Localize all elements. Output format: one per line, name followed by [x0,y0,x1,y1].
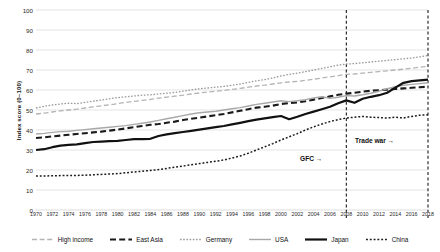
legend-label: High income [58,236,94,243]
y-tick-label: 20 [26,167,33,174]
event-vertical-lines [346,10,428,218]
x-tick-label: 2008 [340,211,352,217]
x-tick-label: 2000 [275,211,287,217]
y-tick-label: 90 [26,27,33,34]
y-tick-label: 50 [26,107,33,114]
x-tick-label: 1992 [210,211,222,217]
y-tick-label: 40 [26,127,33,134]
x-axis-ticks: 1970197219741976197819801982198419861988… [36,211,428,223]
x-tick-label: 2004 [308,211,320,217]
x-tick-label: 2012 [373,211,385,217]
x-tick-label: 1976 [79,211,91,217]
y-tick-label: 70 [26,67,33,74]
annotation-gfc: GFC → [300,155,322,162]
x-tick-label: 2002 [291,211,303,217]
x-tick-label: 1972 [46,211,58,217]
legend-item-east-asia[interactable]: East Asia [110,236,163,243]
x-tick-label: 1994 [226,211,238,217]
x-tick-label: 1984 [144,211,156,217]
x-tick-label: 2016 [406,211,418,217]
legend-swatch-germany [180,236,202,243]
line-chart: Index score (0–100) 01020304050607080901… [0,0,440,252]
legend-swatch-high-income [32,236,54,243]
y-tick-label: 100 [23,7,33,14]
legend-label: USA [275,236,288,243]
legend-swatch-japan [305,236,327,243]
y-tick-label: 30 [26,147,33,154]
x-tick-label: 2006 [324,211,336,217]
legend-item-china[interactable]: China [366,236,409,243]
legend-swatch-usa [249,236,271,243]
x-tick-label: 1986 [161,211,173,217]
legend-label: China [392,236,409,243]
legend-item-high-income[interactable]: High income [32,236,94,243]
legend-item-usa[interactable]: USA [249,236,288,243]
x-tick-label: 1998 [259,211,271,217]
gridlines [36,10,428,210]
x-tick-label: 1988 [177,211,189,217]
x-tick-label: 1982 [128,211,140,217]
legend-label: East Asia [136,236,163,243]
annotation-trade-war: Trade war → [355,137,394,144]
x-tick-label: 1990 [193,211,205,217]
y-tick-label: 10 [26,187,33,194]
plot-area: 0102030405060708090100 [36,10,428,210]
y-tick-label: 60 [26,87,33,94]
x-tick-label: 2018 [422,211,434,217]
legend-swatch-china [366,236,388,243]
series-line-germany [36,56,428,108]
legend-label: Germany [206,236,232,243]
legend-item-japan[interactable]: Japan [305,236,348,243]
x-tick-label: 1980 [112,211,124,217]
x-tick-label: 2014 [389,211,401,217]
x-tick-label: 1970 [30,211,42,217]
chart-legend: High incomeEast AsiaGermanyUSAJapanChina [0,231,440,247]
y-tick-label: 80 [26,47,33,54]
legend-swatch-east-asia [110,236,132,243]
legend-label: Japan [331,236,348,243]
legend-item-germany[interactable]: Germany [180,236,232,243]
y-axis-label: Index score (0–100) [15,56,22,166]
x-tick-label: 1974 [63,211,75,217]
series-lines [36,56,428,176]
x-tick-label: 1978 [95,211,107,217]
chart-canvas [36,10,428,210]
x-tick-label: 2010 [357,211,369,217]
x-tick-label: 1996 [242,211,254,217]
